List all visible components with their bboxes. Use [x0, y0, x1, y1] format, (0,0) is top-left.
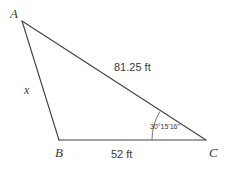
vertex-label-b: B — [55, 146, 63, 159]
triangle-svg — [0, 0, 227, 169]
side-label-bc: 52 ft — [111, 149, 132, 160]
angle-measure-label-c: 30°15'16" — [150, 123, 180, 130]
vertex-label-c: C — [209, 146, 218, 159]
side-label-ac: 81.25 ft — [114, 62, 151, 73]
triangle-diagram: A B C 81.25 ft 52 ft x 30°15'16" — [0, 0, 227, 169]
segment-ab — [22, 21, 59, 140]
side-label-ab-unknown: x — [24, 84, 29, 96]
vertex-label-a: A — [10, 7, 18, 20]
